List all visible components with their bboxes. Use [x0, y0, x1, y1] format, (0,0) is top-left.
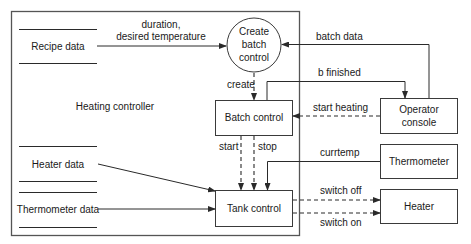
flow-b-finished: b finished	[267, 67, 405, 100]
svg-text:batch: batch	[242, 39, 266, 50]
system-boundary-label: Heating controller	[76, 101, 155, 112]
svg-text:Thermometer: Thermometer	[389, 156, 450, 167]
flow-stop: stop	[254, 136, 277, 190]
svg-text:console: console	[402, 117, 437, 128]
flow-heater-data-to-tank	[98, 164, 215, 191]
process-create-batch-control: Create batch control	[227, 18, 281, 72]
svg-text:stop: stop	[258, 141, 277, 152]
data-store-recipe: Recipe data	[19, 30, 97, 64]
svg-text:Batch control: Batch control	[225, 112, 283, 123]
external-heater: Heater	[381, 190, 458, 224]
flow-switch-on: switch on	[293, 213, 380, 228]
flow-switch-off: switch off	[293, 185, 380, 200]
flow-start-heating: start heating	[293, 102, 380, 116]
flow-recipe-to-create: duration, desired temperature	[97, 19, 226, 46]
svg-text:batch data: batch data	[316, 31, 363, 42]
svg-text:b finished: b finished	[318, 67, 361, 78]
svg-text:start heating: start heating	[313, 102, 368, 113]
process-batch-control: Batch control	[216, 101, 293, 136]
svg-text:currtemp: currtemp	[320, 147, 360, 158]
flow-create: create	[227, 73, 255, 100]
flow-currtemp: currtemp	[268, 147, 381, 190]
data-store-thermometer-data: Thermometer data	[17, 193, 100, 228]
svg-text:Tank control: Tank control	[227, 203, 281, 214]
svg-text:switch on: switch on	[320, 217, 362, 228]
flow-start: start	[219, 136, 241, 190]
svg-text:Heater data: Heater data	[32, 159, 85, 170]
svg-text:Thermometer data: Thermometer data	[17, 204, 100, 215]
svg-text:desired temperature: desired temperature	[116, 31, 206, 42]
svg-text:switch off: switch off	[320, 185, 362, 196]
svg-text:start: start	[219, 141, 239, 152]
heating-controller-diagram: Heating controller Recipe data Heater da…	[0, 0, 471, 244]
external-thermometer: Thermometer	[381, 145, 458, 179]
external-operator-console: Operator console	[381, 99, 458, 134]
flow-batch-data: batch data	[282, 31, 429, 98]
svg-text:duration,: duration,	[142, 19, 181, 30]
svg-text:Recipe data: Recipe data	[31, 41, 85, 52]
svg-text:Heater: Heater	[404, 201, 435, 212]
svg-text:Create: Create	[239, 26, 269, 37]
svg-text:Operator: Operator	[399, 104, 439, 115]
process-tank-control: Tank control	[216, 191, 293, 227]
svg-text:create: create	[227, 79, 255, 90]
data-store-heater-data: Heater data	[19, 147, 97, 182]
svg-text:control: control	[239, 52, 269, 63]
